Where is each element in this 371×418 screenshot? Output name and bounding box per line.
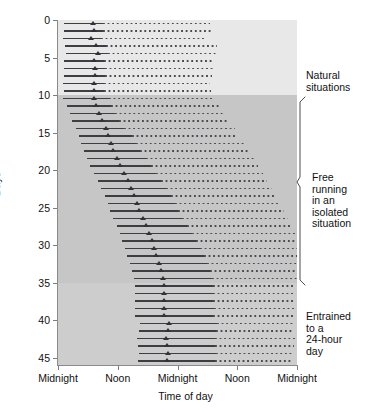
activity-bout-solid xyxy=(140,323,218,325)
activity-bout-solid xyxy=(63,38,101,40)
actogram-row xyxy=(58,185,297,193)
plot-area xyxy=(58,20,297,365)
activity-bout-dotted xyxy=(171,195,277,197)
y-tick-mark xyxy=(53,20,57,21)
activity-bout-dotted xyxy=(136,143,245,145)
actogram-row xyxy=(58,268,297,276)
y-tick-mark xyxy=(53,208,57,209)
activity-bout-solid xyxy=(117,225,188,227)
actogram-figure: Days 051015202530354045 MidnightNoonMidn… xyxy=(0,0,371,418)
activity-bout-solid xyxy=(67,105,110,107)
actogram-row xyxy=(58,35,297,43)
activity-bout-dotted xyxy=(182,218,288,220)
y-tick-label: 45 xyxy=(24,353,50,364)
x-tick-mark xyxy=(58,366,59,370)
actogram-row xyxy=(58,65,297,73)
activity-bout-solid xyxy=(64,30,103,32)
actogram-row xyxy=(58,193,297,201)
activity-onset-marker xyxy=(161,291,167,295)
activity-bout-dotted xyxy=(187,225,292,227)
activity-bout-solid xyxy=(127,255,204,257)
actogram-row xyxy=(58,103,297,111)
activity-onset-marker xyxy=(165,328,171,332)
activity-onset-marker xyxy=(166,321,172,325)
activity-bout-solid xyxy=(64,60,103,62)
activity-bout-solid xyxy=(70,113,115,115)
activity-bout-dotted xyxy=(175,203,281,205)
activity-onset-marker xyxy=(164,358,170,362)
activity-onset-marker xyxy=(96,111,102,115)
activity-bout-dotted xyxy=(204,255,297,257)
activity-bout-dotted xyxy=(207,263,297,265)
activity-bout-solid xyxy=(110,210,179,212)
activity-bout-dotted xyxy=(217,323,295,325)
activity-onset-marker xyxy=(92,66,98,70)
actogram-row xyxy=(58,305,297,313)
activity-onset-marker xyxy=(125,178,131,182)
actogram-row xyxy=(58,223,297,231)
activity-onset-marker xyxy=(161,306,167,310)
activity-bout-dotted xyxy=(161,180,268,182)
activity-bout-solid xyxy=(76,128,124,130)
actogram-row xyxy=(58,58,297,66)
activity-onset-marker xyxy=(156,261,162,265)
actogram-row xyxy=(58,155,297,163)
annotation-natural-situations: Naturalsituations xyxy=(306,70,350,93)
activity-bout-dotted xyxy=(178,210,284,212)
activity-bout-solid xyxy=(125,248,201,250)
actogram-row xyxy=(58,118,297,126)
activity-onset-marker xyxy=(103,126,109,130)
actogram-row xyxy=(58,350,297,358)
activity-onset-marker xyxy=(117,163,123,167)
activity-bout-dotted xyxy=(104,83,211,85)
activity-bout-solid xyxy=(130,263,208,265)
activity-onset-marker xyxy=(151,246,157,250)
y-axis-spine xyxy=(57,20,58,365)
activity-onset-marker xyxy=(134,201,140,205)
x-axis-label: Time of day xyxy=(0,390,371,402)
actogram-row xyxy=(58,358,297,366)
actogram-row xyxy=(58,20,297,28)
actogram-row xyxy=(58,73,297,81)
y-tick-mark xyxy=(53,283,57,284)
activity-onset-marker xyxy=(128,186,134,190)
actogram-row xyxy=(58,28,297,36)
activity-bout-dotted xyxy=(105,68,215,70)
activity-bout-solid xyxy=(63,98,109,100)
activity-onset-marker xyxy=(161,283,167,287)
actogram-row xyxy=(58,245,297,253)
activity-onset-marker xyxy=(114,156,120,160)
activity-bout-dotted xyxy=(192,233,295,235)
activity-onset-marker xyxy=(90,21,96,25)
actogram-row xyxy=(58,343,297,351)
activity-bout-solid xyxy=(135,315,214,317)
annotation-line: Free xyxy=(312,172,351,184)
activity-onset-marker xyxy=(149,238,155,242)
x-tick-mark xyxy=(297,366,298,370)
activity-onset-marker xyxy=(108,141,114,145)
activity-bout-solid xyxy=(65,45,105,47)
actogram-row xyxy=(58,140,297,148)
activity-onset-marker xyxy=(110,148,116,152)
activity-bout-dotted xyxy=(103,23,211,25)
activity-bout-dotted xyxy=(215,338,295,340)
activity-onset-marker xyxy=(164,343,170,347)
activity-bout-solid xyxy=(135,300,214,302)
activity-onset-marker xyxy=(146,231,152,235)
activity-bout-solid xyxy=(64,68,104,70)
activity-bout-dotted xyxy=(156,173,264,175)
activity-onset-marker xyxy=(143,223,149,227)
activity-bout-dotted xyxy=(106,45,218,47)
activity-bout-solid xyxy=(122,240,196,242)
actogram-row xyxy=(58,208,297,216)
activity-onset-marker xyxy=(92,73,98,77)
actogram-row xyxy=(58,253,297,261)
activity-bout-dotted xyxy=(213,300,295,302)
activity-bout-solid xyxy=(64,23,103,25)
y-tick-mark xyxy=(53,358,57,359)
actogram-row xyxy=(58,238,297,246)
activity-bout-dotted xyxy=(214,308,295,310)
activity-onset-marker xyxy=(88,36,94,40)
activity-bout-dotted xyxy=(103,30,211,32)
activity-bout-dotted xyxy=(213,293,294,295)
